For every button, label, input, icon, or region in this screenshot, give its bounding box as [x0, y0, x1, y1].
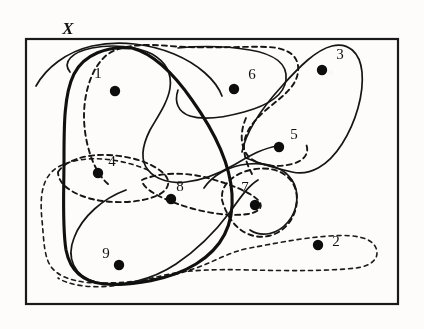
- point-label-6: 6: [248, 66, 256, 82]
- point-label-1: 1: [94, 65, 102, 81]
- point-group-4: 4: [93, 153, 116, 178]
- point-dot-2: [313, 240, 323, 250]
- point-dot-4: [93, 168, 103, 178]
- region-solid-lower-nine-eight: [71, 180, 258, 284]
- point-dot-3: [317, 65, 327, 75]
- point-label-5: 5: [290, 126, 298, 142]
- point-label-2: 2: [332, 233, 340, 249]
- point-label-7: 7: [241, 179, 249, 195]
- set-cover-diagram: 1 2 3 4 5 6 7 8 9 X: [0, 0, 424, 329]
- point-label-4: 4: [108, 153, 116, 169]
- point-group-1: 1: [94, 65, 120, 96]
- point-group-9: 9: [102, 245, 124, 270]
- point-dot-7: [250, 200, 260, 210]
- point-label-8: 8: [176, 178, 184, 194]
- region-solid-three-five: [242, 45, 362, 173]
- point-dot-9: [114, 260, 124, 270]
- point-group-6: 6: [229, 66, 256, 94]
- region-solid-arc-upper: [36, 43, 222, 96]
- universe-label: X: [61, 19, 74, 38]
- point-dot-5: [274, 142, 284, 152]
- point-group-5: 5: [274, 126, 298, 152]
- point-label-9: 9: [102, 245, 110, 261]
- point-label-3: 3: [336, 46, 344, 62]
- point-group-2: 2: [313, 233, 340, 250]
- point-dot-1: [110, 86, 120, 96]
- point-dot-8: [166, 194, 176, 204]
- point-dot-6: [229, 84, 239, 94]
- region-solid-thick-blob: [64, 48, 233, 285]
- region-dashed-top-sweep: [84, 45, 298, 184]
